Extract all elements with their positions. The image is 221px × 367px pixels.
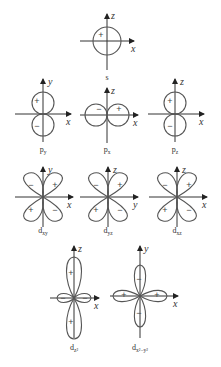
sign-label: − bbox=[162, 180, 167, 190]
sign-label: − bbox=[136, 274, 141, 284]
z-axis-label: z bbox=[112, 164, 117, 175]
orbital-label-pz: pz bbox=[172, 145, 179, 155]
dz2-orbital: z x + + − − dz² bbox=[50, 243, 99, 353]
z-axis-label: z bbox=[181, 164, 186, 175]
sign-label: + bbox=[117, 180, 122, 190]
x-axis-label: x bbox=[132, 117, 138, 128]
sign-label: − bbox=[186, 205, 191, 215]
orbital-label-dxy: dxy bbox=[38, 226, 48, 236]
sign-label: + bbox=[167, 96, 172, 106]
orbital-label-dz2: dz² bbox=[70, 343, 78, 353]
dxy-orbital: y x − + + − dxy bbox=[15, 164, 73, 236]
orbital-label-px: px bbox=[104, 145, 111, 155]
x-axis-label: x bbox=[93, 300, 99, 311]
y-axis-label: y bbox=[132, 199, 138, 210]
sign-label: + bbox=[121, 290, 126, 300]
z-axis-label: z bbox=[77, 243, 82, 254]
sign-label: + bbox=[162, 205, 167, 215]
sign-label: + bbox=[52, 180, 57, 190]
orbital-label-dx2y2: dx²−y² bbox=[132, 343, 148, 353]
orbital-label-dxz: dxz bbox=[172, 226, 182, 236]
sign-label: − bbox=[136, 308, 141, 318]
sign-label: − bbox=[117, 205, 122, 215]
x-axis-label: x bbox=[198, 116, 204, 127]
sign-label: − bbox=[167, 121, 172, 131]
px-orbital: z x − + px bbox=[80, 85, 138, 155]
sign-label: + bbox=[98, 30, 103, 40]
sign-label: − bbox=[96, 104, 101, 114]
orbital-label-dyz: dyz bbox=[103, 226, 113, 236]
x-axis-label: x bbox=[172, 298, 178, 309]
sign-label: + bbox=[34, 96, 39, 106]
dxz-orbital: z x − + + − dxz bbox=[149, 164, 207, 236]
dyz-orbital: z y − + + − dyz bbox=[80, 164, 138, 236]
orbital-diagram: z x + s y x + − py z x − + px z x + − bbox=[0, 0, 221, 367]
z-axis-label: z bbox=[179, 76, 184, 87]
orbital-label-s: s bbox=[105, 73, 108, 82]
sign-label: + bbox=[93, 205, 98, 215]
dx2y2-orbital: y x − − + + dx²−y² bbox=[110, 243, 178, 353]
y-axis-label: y bbox=[47, 164, 53, 175]
sign-label: − bbox=[52, 205, 57, 215]
sign-label: − bbox=[34, 121, 39, 131]
x-axis-label: x bbox=[130, 43, 136, 54]
s-orbital: z x + s bbox=[80, 10, 136, 82]
sign-label: + bbox=[186, 180, 191, 190]
z-axis-label: z bbox=[110, 10, 115, 21]
sign-label: − bbox=[28, 180, 33, 190]
sign-label: + bbox=[68, 268, 73, 278]
py-orbital: y x + − py bbox=[15, 76, 71, 155]
orbital-label-py: py bbox=[40, 145, 47, 155]
sign-label: + bbox=[28, 205, 33, 215]
sign-label: − bbox=[93, 180, 98, 190]
y-axis-label: y bbox=[47, 76, 53, 87]
x-axis-label: x bbox=[66, 199, 72, 210]
x-axis-label: x bbox=[65, 116, 71, 127]
sign-label: + bbox=[154, 290, 159, 300]
x-axis-label: x bbox=[201, 199, 207, 210]
z-axis-label: z bbox=[110, 85, 115, 96]
y-axis-label: y bbox=[143, 243, 149, 254]
pz-orbital: z x + − pz bbox=[148, 76, 204, 155]
sign-label: + bbox=[116, 104, 121, 114]
sign-label: + bbox=[68, 317, 73, 327]
sign-label: − bbox=[82, 293, 87, 303]
sign-label: − bbox=[60, 293, 65, 303]
